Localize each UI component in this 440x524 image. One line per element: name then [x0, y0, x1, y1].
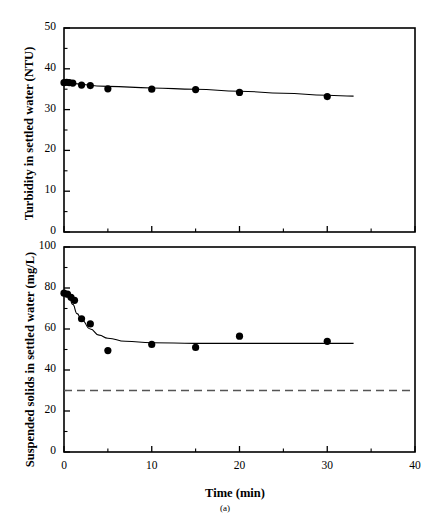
data-point-marker: [87, 320, 94, 327]
y-tick-label-bottom: 60: [18, 321, 56, 333]
y-tick-label-top: 50: [18, 20, 56, 32]
data-point-marker: [78, 82, 85, 89]
y-tick-label-bottom: 20: [18, 403, 56, 415]
y-tick-label-top: 10: [18, 183, 56, 195]
y-tick-label-top: 20: [18, 142, 56, 154]
x-tick-label: 30: [312, 459, 342, 471]
plot-area-svg: [0, 0, 440, 524]
x-tick-label: 0: [49, 459, 79, 471]
x-tick-label: 20: [225, 459, 255, 471]
data-point-marker: [236, 89, 243, 96]
y-tick-label-bottom: 40: [18, 362, 56, 374]
y-tick-label-bottom: 0: [18, 444, 56, 456]
y-tick-label-bottom: 100: [18, 239, 56, 251]
data-point-marker: [148, 86, 155, 93]
y-tick-label-top: 30: [18, 102, 56, 114]
data-point-marker: [104, 347, 111, 354]
data-point-marker: [148, 341, 155, 348]
panel-frame-bottom: [64, 247, 415, 452]
y-tick-label-top: 40: [18, 61, 56, 73]
data-point-marker: [236, 333, 243, 340]
panel-top: [60, 28, 415, 232]
data-point-marker: [324, 93, 331, 100]
x-tick-label: 10: [137, 459, 167, 471]
fit-curve: [68, 294, 353, 343]
data-point-marker: [192, 344, 199, 351]
panel-bottom: [60, 247, 415, 452]
y-tick-label-top: 0: [18, 224, 56, 236]
figure-container: Turbidity in settled water (NTU) Suspend…: [0, 0, 440, 524]
y-tick-label-bottom: 80: [18, 280, 56, 292]
x-tick-label: 40: [400, 459, 430, 471]
panel-frame-top: [64, 28, 415, 232]
